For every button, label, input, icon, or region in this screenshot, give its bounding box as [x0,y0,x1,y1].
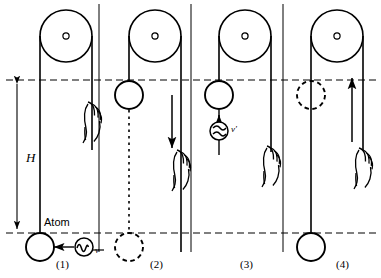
pulley-1 [40,10,92,62]
hand-3-finger-1 [267,146,274,160]
hand-3 [262,146,281,187]
panel-4-caption: (4) [336,258,349,270]
photon-symbol-3 [210,122,228,140]
hand-3-wrist-left [264,171,265,184]
photon-circle-3 [210,122,228,140]
pulley-4 [311,10,363,62]
hand-2-wrist-left [174,175,175,188]
panel-3-caption: (3) [240,258,253,270]
photon-symbol-1 [75,238,93,256]
hand-1-wrist-left [85,127,86,140]
pulley-3 [219,10,271,62]
panel-2 [115,10,191,261]
photon-nu-prime-label: ν′ [231,124,237,134]
pulley-axle-1 [63,33,69,39]
hand-2-wrist-right [183,169,189,190]
pulley-2 [129,10,181,62]
panel-2-caption: (2) [150,258,163,270]
mass-solid-2 [115,81,143,109]
panel-4 [297,10,373,261]
hand-4-wrist-left [356,173,357,186]
panel-1-caption: (1) [56,258,69,270]
pulley-axle-2 [152,33,158,39]
atom-label: Atom [44,216,70,228]
mass-solid-3 [205,81,233,109]
mass-solid-4 [297,233,325,261]
mass-solid-1 [26,233,54,261]
hand-4-finger-1 [359,148,366,162]
figure-canvas: H Atom ν ν′ (1) (2) (3) (4) [0,0,381,278]
panel-3 [205,10,281,187]
hand-3-wrist-right [273,165,279,186]
pulley-axle-4 [334,33,340,39]
mass-ghost-2 [115,233,143,261]
pulley-photon-diagram [0,0,381,278]
photon-nu-label: ν [95,245,99,255]
hand-4-wrist-right [365,167,371,188]
hand-4 [354,148,373,189]
height-label: H [26,150,35,166]
pulley-axle-3 [242,33,248,39]
